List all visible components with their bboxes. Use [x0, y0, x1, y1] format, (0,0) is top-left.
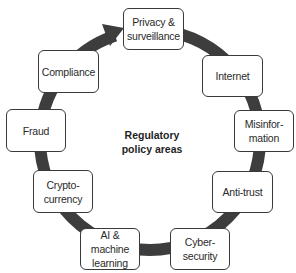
node-label: Cyber- security	[183, 235, 218, 263]
node-anti-trust: Anti-trust	[212, 171, 273, 213]
node-label: Fraud	[23, 124, 49, 138]
node-internet: Internet	[202, 55, 263, 97]
node-cryptocurrency: Crypto- currency	[33, 170, 93, 213]
node-ai-machine-learning: AI & machine learning	[80, 228, 140, 270]
node-label: Compliance	[42, 65, 95, 79]
node-label: AI & machine learning	[91, 228, 129, 270]
node-label: Internet	[215, 69, 249, 83]
node-cybersecurity: Cyber- security	[170, 228, 230, 270]
node-label: Privacy & surveillance	[127, 15, 180, 43]
center-title: Regulatory policy areas	[112, 128, 192, 156]
node-fraud: Fraud	[6, 109, 66, 152]
node-misinformation: Misinfor- mation	[234, 110, 294, 152]
node-label: Anti-trust	[222, 185, 262, 199]
node-privacy: Privacy & surveillance	[123, 8, 184, 50]
node-label: Misinfor- mation	[245, 117, 283, 145]
node-label: Crypto- currency	[44, 178, 83, 206]
node-compliance: Compliance	[38, 50, 99, 93]
